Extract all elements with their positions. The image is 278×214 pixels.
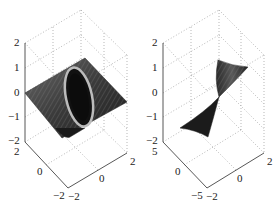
right-plot-axes: [163, 10, 264, 188]
left-z-tick-0: 0: [14, 87, 20, 98]
right-y-tick-0: 0: [175, 166, 181, 177]
right-z-tick-neg1: −1: [146, 111, 158, 122]
left-z-tick-neg1: −1: [8, 111, 20, 122]
left-y-tick-2: 2: [14, 146, 20, 157]
left-y-tick-0: 0: [37, 166, 43, 177]
right-z-tick-0: 0: [152, 87, 158, 98]
right-x-tick-0: 0: [237, 173, 243, 184]
left-z-tick-2: 2: [14, 37, 20, 48]
left-x-tick-0: 0: [99, 173, 105, 184]
right-z-tick-1: 1: [152, 62, 158, 73]
right-x-tick-2: 2: [267, 156, 273, 167]
right-y-tick-neg5: −5: [191, 190, 203, 201]
left-x-tick-neg2: −2: [68, 191, 80, 202]
figure: 2 1 0 −1 −2 2 0 −2 −2 0 2 2 1 0 −1 −2 5 …: [0, 0, 278, 214]
left-z-tick-1: 1: [14, 62, 20, 73]
right-x-tick-neg2: −2: [206, 191, 218, 202]
left-surface: [25, 58, 127, 138]
right-z-tick-2: 2: [152, 37, 158, 48]
right-surface: [180, 60, 248, 137]
right-y-tick-5: 5: [152, 146, 158, 157]
left-y-tick-neg2: −2: [53, 190, 65, 201]
left-x-tick-2: 2: [130, 156, 136, 167]
